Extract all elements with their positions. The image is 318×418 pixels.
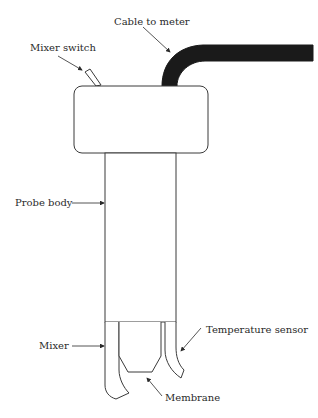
mixer-switch-label: Mixer switch xyxy=(30,42,96,54)
temperature-sensor-leader xyxy=(181,328,201,351)
membrane-housing xyxy=(119,322,161,372)
temperature-sensor-label: Temperature sensor xyxy=(206,324,308,336)
mixer-switch xyxy=(85,69,101,86)
probe-body xyxy=(105,153,176,322)
probe-body-label: Probe body xyxy=(15,197,73,209)
membrane-leader xyxy=(147,378,162,396)
probe-drawing xyxy=(0,0,318,418)
temperature-sensor xyxy=(165,322,184,378)
probe-head xyxy=(74,86,208,153)
cable-label: Cable to meter xyxy=(114,16,190,28)
cable-leader xyxy=(143,27,170,52)
cable xyxy=(162,45,313,86)
mixer-switch-leader xyxy=(58,56,82,70)
mixer-label: Mixer xyxy=(39,340,69,352)
probe-diagram: Cable to meter Mixer switch Probe body M… xyxy=(0,0,318,418)
membrane-label: Membrane xyxy=(165,392,220,404)
